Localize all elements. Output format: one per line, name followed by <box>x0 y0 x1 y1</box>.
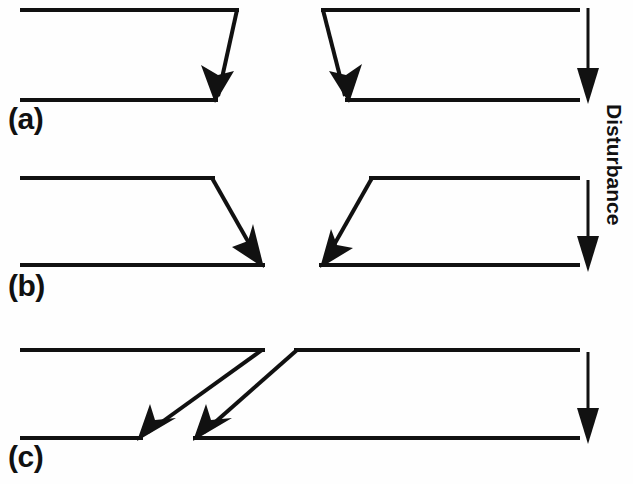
panel-c-left-displacement-arrowhead <box>137 404 176 441</box>
panel-label-a: (a) <box>8 104 43 134</box>
panel-c-group <box>22 350 578 441</box>
panel-a-group <box>22 10 578 103</box>
disturbance-figure: (a) (b) (c) Disturbance <box>0 0 633 484</box>
disturbance-axis-label: Disturbance <box>602 104 626 225</box>
disturbance-arrows-group <box>577 8 599 444</box>
disturbance-arrow-b-head <box>577 236 599 272</box>
panel-b-group <box>22 178 578 268</box>
panel-a-right-displacement-arrowhead <box>329 64 362 103</box>
panel-b-right-displacement-arrowhead <box>320 229 353 268</box>
panel-label-c: (c) <box>8 442 43 472</box>
panel-b-left-displacement-arrowhead <box>232 224 264 268</box>
disturbance-arrow-c-head <box>577 408 599 444</box>
panel-c-right-displacement-arrowhead <box>193 404 232 441</box>
diagram-canvas <box>0 0 633 484</box>
panel-label-b: (b) <box>8 271 45 301</box>
panel-a-left-displacement-arrowhead <box>201 65 234 103</box>
disturbance-arrow-a-head <box>577 68 599 104</box>
